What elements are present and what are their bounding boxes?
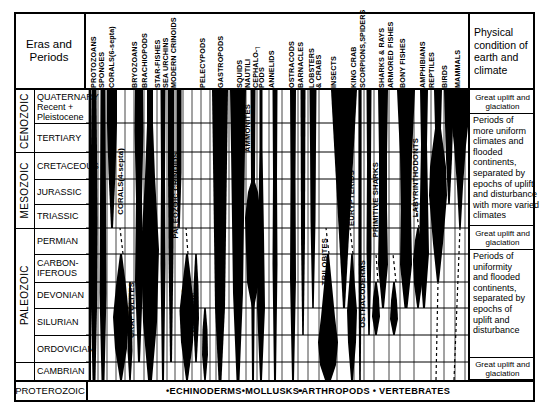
- range-label-primitive-sharks: PRIMITIVE SHARKS: [371, 162, 380, 237]
- range-label-blastoids: BLASTOIDS: [180, 288, 189, 334]
- era-mesozoic: MESOZOIC: [14, 152, 35, 229]
- era-blank: [14, 362, 35, 381]
- column-header-pods: PODS: [258, 14, 266, 88]
- column-header-crabs: & CRABS: [315, 14, 323, 88]
- column-header-brachiopods: BRACHIOPODS: [141, 14, 149, 88]
- period-silurian: SILURIAN: [34, 308, 91, 336]
- column-header-modern-crinoids: MODERN CRINOIDS: [170, 14, 178, 88]
- column-header-king-crab: KING CRAB: [350, 14, 358, 88]
- column-header-amphibians: AMPHIBIANS: [419, 14, 427, 88]
- range-label-graptolites: GRAPTOLITES: [127, 282, 136, 338]
- period-jurassic: JURASSIC: [34, 179, 91, 205]
- column-header-scorpions-spiders: SCORPIONS,SPIDERS: [359, 14, 367, 88]
- column-header-sponges: SPONGES: [98, 14, 106, 88]
- period-cretaceous: CRETACEOUS: [34, 152, 91, 180]
- eras-and-periods-title: Eras and Periods: [14, 12, 86, 90]
- era-label: PALEOZOIC: [19, 265, 30, 325]
- fossil-range-plot: CORALS(4-septa)GRAPTOLITESPALEOZOIC CRIN…: [86, 90, 468, 380]
- column-header-barnacles: BARNACLES: [297, 14, 305, 88]
- range-label-labyrinthodonts: LABYRINTHODONTS: [411, 138, 420, 217]
- era-cenozoic: CENOZOIC: [14, 90, 35, 153]
- range-label-corals-4-septa: CORALS(4-septa): [116, 148, 125, 215]
- footer-group-1: •ECHINODERMS•MOLLUSKS•: [166, 386, 303, 396]
- period-tertiary: TERTIARY: [34, 123, 91, 153]
- era-label: CENOZOIC: [19, 93, 30, 149]
- period-triassic: TRIASSIC: [34, 204, 91, 229]
- column-header-sharks-rays: SHARKS & RAYS: [378, 14, 386, 88]
- physical-condition-row-3: Great uplift and glaciation: [468, 226, 535, 250]
- footer-group-2: •ARTHROPODS • VERTEBRATES: [298, 386, 450, 396]
- column-header-reptiles: REPTILES: [428, 14, 436, 88]
- physical-condition-row-4: Periods of uniformity and flooded contin…: [468, 250, 535, 358]
- era-paleozoic: PALEOZOIC: [14, 228, 35, 363]
- physical-condition-title: Physical condition of earth and climate: [468, 12, 535, 90]
- fossil-range-svg: [86, 90, 468, 380]
- range-label-eurypterids: EURYPTERIDS: [347, 170, 356, 226]
- column-header-armored-fishes: ARMORED FISHES: [387, 14, 395, 88]
- range-label-trilobites: TRILOBITES: [320, 238, 329, 285]
- column-header-birds: BIRDS: [441, 14, 449, 88]
- range-label-ostracoderms: OSTRACODERMS: [358, 260, 367, 328]
- column-header-insects: INSECTS: [330, 14, 338, 88]
- range-label-ammonites: AMMONITES: [243, 104, 252, 152]
- physical-condition-row-1: Great uplift and glaciation: [468, 90, 535, 114]
- range-label-paleozoic-crinoids: PALEOZOIC CRINOIDS: [171, 152, 180, 239]
- column-header-bony-fishes: BONY FISHES: [399, 14, 407, 88]
- column-header-annelids: ANNELIDS: [268, 14, 276, 88]
- column-header-pelecypods: PELECYPODS: [199, 14, 207, 88]
- era-label: MESOZOIC: [19, 162, 30, 219]
- period-permian: PERMIAN: [34, 228, 91, 255]
- physical-condition-row-5: Great uplift and glaciation: [468, 358, 535, 380]
- period-devonian: DEVONIAN: [34, 282, 91, 309]
- geologic-time-chart: Eras and Periods Physical condition of e…: [0, 0, 549, 415]
- column-header-ostracods: OSTRACODS: [288, 14, 296, 88]
- column-header-mammals: MAMMALS: [454, 14, 462, 88]
- period-quaternary: QUATERNARY Recent + Pleistocene: [34, 90, 91, 124]
- physical-condition-row-2: Periods of more uniform climates and flo…: [468, 114, 535, 226]
- column-header-corals-6-septa: CORALS(6-septa): [108, 14, 116, 88]
- column-header-bryozoans: BRYOZOANS: [131, 14, 139, 88]
- period-ordovician: ORDOVICIAN: [34, 335, 91, 363]
- period-cambrian: CAMBRIAN: [34, 362, 91, 381]
- column-header-gastropods: GASTROPODS: [217, 14, 225, 88]
- range-label-cystoids: CYSTOIDS: [190, 292, 199, 332]
- period-carbon: CARBON- IFEROUS: [34, 254, 91, 283]
